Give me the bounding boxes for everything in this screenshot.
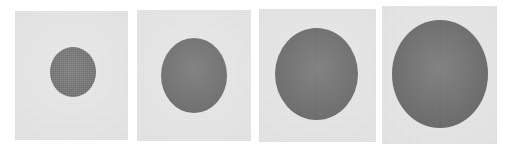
circle-texture-3 — [275, 28, 358, 120]
dark-circle-2 — [161, 38, 227, 113]
dark-circle-3 — [275, 28, 358, 120]
circle-texture-1 — [50, 47, 96, 97]
image-panel-3 — [259, 9, 376, 142]
circle-size-progression-figure — [0, 0, 507, 150]
circle-seam-artifact-4 — [439, 20, 441, 128]
image-panel-4 — [382, 6, 497, 144]
dark-circle-4 — [392, 20, 488, 128]
circle-texture-2 — [161, 38, 227, 113]
image-panel-2 — [137, 10, 251, 141]
image-panel-1 — [15, 11, 128, 140]
circle-seam-artifact-3 — [315, 28, 317, 120]
dark-circle-1 — [50, 47, 96, 97]
circle-texture-4 — [392, 20, 488, 128]
